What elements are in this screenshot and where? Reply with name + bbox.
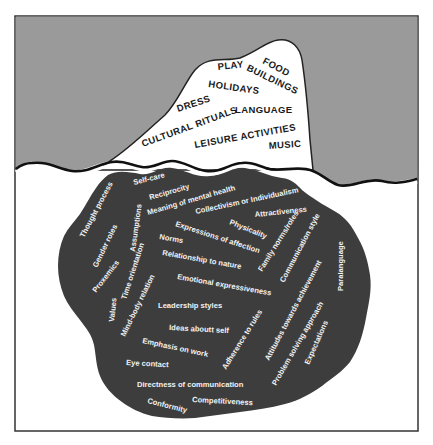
label-language: LANGUAGE: [235, 104, 293, 115]
iceberg-diagram: FOOD PLAY BUILDINGS HOLIDAYS DRESS LANGU…: [0, 0, 433, 445]
label-paralanguage: Paralanguage: [336, 241, 345, 291]
label-leadership-styles: Leadership styles: [158, 301, 222, 310]
label-music: MUSIC: [268, 138, 301, 151]
label-directness-communication: Directness of communication: [137, 380, 244, 389]
